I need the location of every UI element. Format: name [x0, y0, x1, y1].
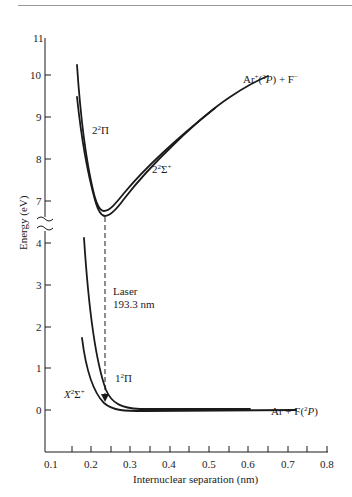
y-axis-title: Energy (eV): [17, 195, 30, 250]
laser-transition-arrow: [101, 217, 109, 402]
x-tick-0.1: 0.1: [44, 458, 58, 470]
axis-break-mark-bottom: [37, 226, 53, 230]
label-2-2-sigma: 22Σ+: [152, 163, 171, 175]
y-tick-3: 3: [36, 279, 42, 291]
laser-label: Laser: [113, 285, 138, 297]
laser-wavelength-label: 193.3 nm: [113, 298, 155, 310]
y-tick-4: 4: [36, 237, 42, 249]
x-axis: [45, 446, 328, 452]
x-tick-0.3: 0.3: [123, 458, 137, 470]
x-axis-title: Internuclear separation (nm): [133, 473, 259, 486]
x-tick-0.2: 0.2: [84, 458, 98, 470]
y-tick-11: 11: [33, 32, 44, 44]
label-1-2-pi: 12Π: [115, 372, 132, 384]
y-tick-8: 8: [36, 153, 42, 165]
label-asymptote-lower: Ar + F(2P): [271, 405, 318, 418]
curve-2-2-sigma: [77, 76, 268, 216]
label-asymptote-upper: Ar+(2P) + F−: [243, 73, 298, 86]
x-tick-0.6: 0.6: [241, 458, 255, 470]
x-tick-0.7: 0.7: [281, 458, 295, 470]
curve-1-2-pi: [84, 238, 250, 409]
label-2-2-pi: 22Π: [92, 124, 109, 136]
y-tick-1: 1: [36, 362, 42, 374]
y-tick-0: 0: [36, 404, 42, 416]
x-tick-labels: 0.1 0.2 0.3 0.4 0.5 0.6 0.7 0.8: [44, 458, 334, 470]
y-tick-7: 7: [36, 195, 42, 207]
potential-energy-chart: 11 10 9 8 7 4 3 2 1 0 0.1 0.2 0.3 0.4 0.…: [0, 0, 352, 497]
label-x-2-sigma: X2Σ+: [63, 388, 85, 400]
y-tick-9: 9: [36, 111, 42, 123]
x-tick-0.4: 0.4: [162, 458, 176, 470]
y-tick-2: 2: [36, 321, 42, 333]
x-tick-0.8: 0.8: [320, 458, 334, 470]
y-tick-10: 10: [30, 69, 42, 81]
curve-2-2-pi: [77, 65, 215, 211]
x-tick-0.5: 0.5: [202, 458, 216, 470]
axis-break-mark-top: [37, 217, 53, 221]
y-tick-labels: 11 10 9 8 7 4 3 2 1 0: [30, 32, 44, 416]
